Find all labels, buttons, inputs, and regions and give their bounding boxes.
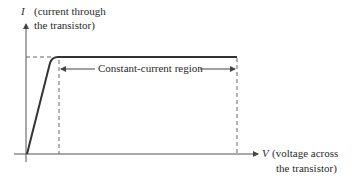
y-axis-symbol: I [21, 5, 25, 18]
y-axis-label-line1: (current through [34, 5, 106, 18]
x-axis-symbol: V [262, 147, 269, 160]
x-axis-label-line2: the transistor) [276, 162, 337, 175]
region-label: Constant-current region [98, 62, 203, 75]
x-axis-label-line1: (voltage across [272, 147, 338, 160]
y-axis-label-line2: the transistor) [34, 19, 95, 32]
